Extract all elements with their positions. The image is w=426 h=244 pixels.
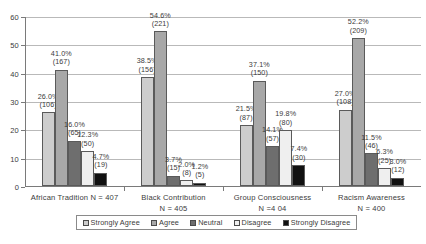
- bar-count: (209): [350, 26, 367, 35]
- legend-label: Disagree: [242, 218, 272, 227]
- bar-value-label: 12.3%(50): [77, 131, 98, 148]
- bar[interactable]: 3.0%(12): [391, 178, 404, 187]
- bar[interactable]: 4.7%(19): [94, 173, 107, 186]
- legend-item[interactable]: Strongly Agree: [83, 218, 140, 227]
- legend-swatch-icon: [83, 220, 89, 226]
- bars-layer: 26.0%(106)41.0%(167)16.0%(65)12.3%(50)4.…: [25, 0, 421, 187]
- bar[interactable]: 27.0%(108): [339, 110, 352, 187]
- bar-count: (12): [391, 165, 404, 174]
- x-category-line: Black Contribution: [141, 193, 205, 202]
- y-tick-label: 20: [10, 126, 19, 135]
- x-category-label: Racism AwarenessN = 400: [322, 192, 421, 214]
- bar-value-label: 19.8%(80): [275, 110, 296, 127]
- grouped-bar-chart: 0102030405060 26.0%(106)41.0%(167)16.0%(…: [0, 0, 426, 244]
- plot-area: 0102030405060 26.0%(106)41.0%(167)16.0%(…: [0, 0, 426, 192]
- bar-count: (30): [292, 153, 305, 162]
- y-tick-label: 60: [10, 13, 19, 22]
- bar-group: 26.0%(106)41.0%(167)16.0%(65)12.3%(50)4.…: [42, 16, 108, 186]
- bar-value-label: 52.2%(209): [348, 18, 369, 35]
- bar-count: (87): [239, 113, 252, 122]
- bar[interactable]: 14.1%(57): [266, 146, 279, 186]
- bar-value-label: 3.0%(12): [389, 158, 406, 175]
- bar-value-label: 4.7%(19): [92, 153, 109, 170]
- chart-legend: Strongly AgreeAgreeNeutralDisagreeStrong…: [76, 215, 357, 230]
- bar-value-label: 1.2%(5): [191, 163, 208, 180]
- y-tick-label: 40: [10, 69, 19, 78]
- bar-group: 21.5%(87)37.1%(150)14.1%(57)19.8%(80)7.4…: [240, 16, 306, 186]
- bar-count: (80): [279, 118, 292, 127]
- bar[interactable]: 2.0%(8): [180, 180, 193, 186]
- x-category-line: Racism Awareness: [338, 193, 405, 202]
- y-tick-label: 0: [15, 183, 19, 192]
- legend-swatch-icon: [190, 220, 196, 226]
- bar-count: (19): [94, 160, 107, 169]
- legend-item[interactable]: Disagree: [234, 218, 272, 227]
- x-category-line: African Tradition N = 407: [31, 193, 119, 202]
- bar[interactable]: 52.2%(209): [352, 38, 365, 186]
- legend-swatch-icon: [234, 220, 240, 226]
- bar[interactable]: 38.5%(156): [141, 77, 154, 186]
- x-category-line: N = 400: [358, 204, 386, 213]
- legend-item[interactable]: Agree: [151, 218, 179, 227]
- legend-swatch-icon: [283, 220, 289, 226]
- bar[interactable]: 21.5%(87): [240, 125, 253, 186]
- x-category-label: Group ConsciousnessN =4 04: [223, 192, 322, 214]
- bar-count: (5): [195, 170, 204, 179]
- bar-count: (57): [266, 134, 279, 143]
- legend-swatch-icon: [151, 220, 157, 226]
- bar-value-label: 41.0%(167): [51, 50, 72, 67]
- legend-item[interactable]: Strongly Disagree: [283, 218, 351, 227]
- bar-group: 27.0%(108)52.2%(209)11.5%(46)6.3%(25)3.0…: [339, 16, 405, 186]
- legend-label: Neutral: [198, 218, 222, 227]
- legend-label: Strongly Agree: [91, 218, 140, 227]
- legend-item[interactable]: Neutral: [190, 218, 222, 227]
- bar[interactable]: 7.4%(30): [292, 165, 305, 186]
- x-category-label: African Tradition N = 407: [25, 192, 124, 203]
- x-category-line: Group Consciousness: [234, 193, 312, 202]
- y-tick-mark: [21, 187, 25, 188]
- bar-count: (221): [152, 19, 169, 28]
- bar-count: (150): [251, 68, 268, 77]
- legend-label: Agree: [159, 218, 179, 227]
- bar-value-label: 7.4%(30): [290, 145, 307, 162]
- x-category-label: Black ContributionN = 405: [124, 192, 223, 214]
- legend-label: Strongly Disagree: [291, 218, 351, 227]
- bar[interactable]: 26.0%(106): [42, 112, 55, 186]
- x-category-line: N = 405: [160, 204, 188, 213]
- y-axis: 0102030405060: [0, 0, 22, 192]
- bar-count: (8): [182, 168, 191, 177]
- bar-count: (50): [81, 139, 94, 148]
- group-separator-tick: [223, 186, 224, 191]
- x-category-line: N =4 04: [259, 204, 287, 213]
- bar[interactable]: 1.2%(5): [193, 183, 206, 186]
- y-tick-label: 10: [10, 154, 19, 163]
- bar-count: (167): [53, 57, 70, 66]
- bar-value-label: 54.6%(221): [150, 12, 171, 29]
- y-tick-label: 50: [10, 41, 19, 50]
- bar-group: 38.5%(156)54.6%(221)3.7%(15)2.0%(8)1.2%(…: [141, 16, 207, 186]
- group-separator-tick: [124, 186, 125, 191]
- y-tick-label: 30: [10, 98, 19, 107]
- group-separator-tick: [322, 186, 323, 191]
- bar-value-label: 37.1%(150): [249, 61, 270, 78]
